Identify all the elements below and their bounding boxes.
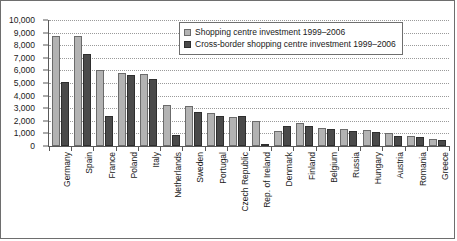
x-axis-tick-mark	[271, 146, 272, 151]
bar-group	[140, 20, 158, 146]
bar-shopping-centre-investment	[118, 73, 126, 146]
bar-shopping-centre-investment	[296, 123, 304, 146]
bar-shopping-centre-investment	[407, 136, 415, 146]
y-axis-tick-label: 0	[30, 142, 35, 151]
bar-cross-border-investment	[216, 116, 224, 146]
bar-shopping-centre-investment	[429, 139, 437, 146]
bar-shopping-centre-investment	[52, 36, 60, 146]
bar-shopping-centre-investment	[185, 106, 193, 146]
bar-cross-border-investment	[238, 116, 246, 146]
x-axis-tick-mark	[182, 146, 183, 151]
bar-shopping-centre-investment	[96, 70, 104, 146]
bar-shopping-centre-investment	[229, 117, 237, 146]
x-axis-tick-label: Russia	[352, 152, 361, 238]
chart-frame: 01,0002,0003,0004,0005,0006,0007,0008,00…	[0, 0, 455, 239]
x-axis-labels: GermanySpainFrancePolandItalyNetherlands…	[48, 152, 448, 240]
x-axis-tick-label: Romania	[419, 152, 428, 238]
x-axis-tick-mark	[360, 146, 361, 151]
x-axis-tick-mark	[71, 146, 72, 151]
bar-cross-border-investment	[105, 116, 113, 146]
x-axis-tick-label: Denmark	[285, 152, 294, 238]
x-axis-tick-label: Belgium	[330, 152, 339, 238]
bar-shopping-centre-investment	[340, 129, 348, 146]
bar-cross-border-investment	[61, 82, 69, 146]
bar-cross-border-investment	[349, 131, 357, 146]
x-axis-tick-mark	[205, 146, 206, 151]
x-axis-tick-label: Greece	[441, 152, 450, 238]
legend-swatch-dark	[184, 41, 191, 48]
bar-group	[74, 20, 92, 146]
bar-group	[407, 20, 425, 146]
x-axis-tick-label: Netherlands	[174, 152, 183, 238]
y-axis-tick-label: 1,000	[14, 129, 35, 138]
y-axis-labels: 01,0002,0003,0004,0005,0006,0007,0008,00…	[1, 13, 43, 153]
x-axis-tick-mark	[160, 146, 161, 151]
chart-legend: Shopping centre investment 1999–2006Cros…	[179, 22, 403, 55]
bar-cross-border-investment	[305, 126, 313, 146]
bar-shopping-centre-investment	[163, 105, 171, 146]
legend-swatch-light	[184, 29, 191, 36]
bar-shopping-centre-investment	[318, 128, 326, 146]
bar-group	[96, 20, 114, 146]
x-axis-tick-label: Sweden	[196, 152, 205, 238]
legend-item: Shopping centre investment 1999–2006	[184, 27, 396, 38]
legend-label: Shopping centre investment 1999–2006	[195, 28, 345, 37]
x-axis-tick-mark	[49, 146, 50, 151]
y-axis-tick-label: 3,000	[14, 104, 35, 113]
x-axis-tick-label: Portugal	[219, 152, 228, 238]
x-axis-tick-label: Poland	[130, 152, 139, 238]
x-axis-tick-label: Rep. of Ireland	[263, 152, 272, 238]
y-axis-tick-label: 9,000	[14, 28, 35, 37]
y-axis-tick-label: 10,000	[9, 16, 35, 25]
bar-cross-border-investment	[83, 54, 91, 146]
bar-shopping-centre-investment	[140, 74, 148, 146]
x-axis-tick-mark	[249, 146, 250, 151]
bar-cross-border-investment	[127, 75, 135, 146]
bar-shopping-centre-investment	[207, 113, 215, 146]
y-axis-tick-label: 5,000	[14, 79, 35, 88]
x-axis-tick-mark	[93, 146, 94, 151]
x-axis-tick-mark	[293, 146, 294, 151]
bar-cross-border-investment	[372, 132, 380, 146]
bar-cross-border-investment	[327, 129, 335, 146]
x-axis-tick-mark	[405, 146, 406, 151]
y-axis-tick-label: 7,000	[14, 54, 35, 63]
x-axis-tick-label: Austria	[396, 152, 405, 238]
bar-cross-border-investment	[172, 135, 180, 146]
x-axis-tick-label: Spain	[85, 152, 94, 238]
y-axis-tick-label: 6,000	[14, 66, 35, 75]
bar-shopping-centre-investment	[274, 131, 282, 146]
y-axis-tick-label: 4,000	[14, 91, 35, 100]
x-axis-tick-label: Hungary	[374, 152, 383, 238]
x-axis-tick-mark	[138, 146, 139, 151]
x-axis-tick-mark	[227, 146, 228, 151]
x-axis-tick-label: Czech Republic	[241, 152, 250, 238]
x-axis-tick-mark	[382, 146, 383, 151]
legend-item: Cross-border shopping centre investment …	[184, 39, 396, 50]
x-axis-tick-mark	[338, 146, 339, 151]
x-axis-tick-mark	[427, 146, 428, 151]
bar-group	[429, 20, 447, 146]
x-axis-tick-label: Finland	[308, 152, 317, 238]
bar-cross-border-investment	[438, 140, 446, 146]
bar-shopping-centre-investment	[363, 130, 371, 146]
y-axis-tick-label: 2,000	[14, 117, 35, 126]
x-axis-tick-mark	[316, 146, 317, 151]
y-axis-tick-label: 8,000	[14, 41, 35, 50]
x-axis-tick-label: Italy	[152, 152, 161, 238]
bar-shopping-centre-investment	[74, 36, 82, 146]
x-axis-tick-label: Germany	[63, 152, 72, 238]
bar-cross-border-investment	[149, 79, 157, 146]
x-axis-tick-mark	[449, 146, 450, 151]
x-axis-tick-mark	[116, 146, 117, 151]
bar-cross-border-investment	[194, 112, 202, 146]
bar-group	[118, 20, 136, 146]
bar-cross-border-investment	[416, 137, 424, 146]
x-axis-tick-label: France	[108, 152, 117, 238]
bar-cross-border-investment	[261, 144, 269, 146]
bar-shopping-centre-investment	[385, 133, 393, 146]
bar-shopping-centre-investment	[252, 121, 260, 146]
legend-label: Cross-border shopping centre investment …	[195, 40, 396, 49]
bar-group	[52, 20, 70, 146]
bar-cross-border-investment	[394, 136, 402, 146]
